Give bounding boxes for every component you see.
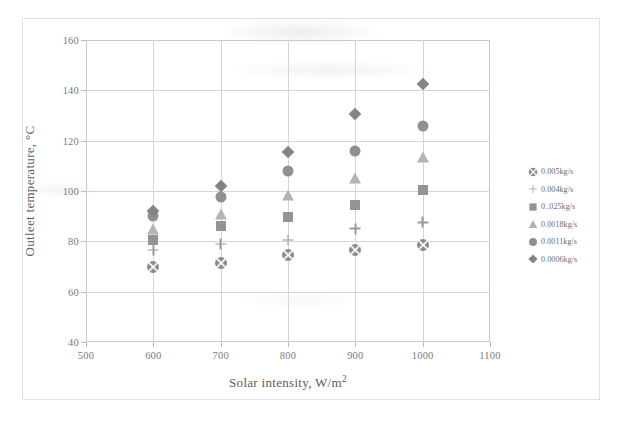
y-tick-label: 120 <box>63 135 79 146</box>
gridline-vertical <box>221 40 222 342</box>
x-tick-mark <box>86 342 87 347</box>
gridline-vertical <box>355 40 356 342</box>
legend-marker-square-icon <box>528 201 538 213</box>
legend-item-label: 0.0006kg/s <box>541 255 577 264</box>
x-axis-title-text: Solar intensity, W/m <box>229 375 342 390</box>
x-axis-title: Solar intensity, W/m2 <box>86 374 490 391</box>
legend-item: 0.0006kg/s <box>528 251 600 269</box>
legend-marker-plus-icon <box>528 183 538 195</box>
data-point-circle-x <box>529 167 538 176</box>
legend-item: 0..025kg/s <box>528 198 600 216</box>
legend-item: 0.0011kg/s <box>528 233 600 251</box>
legend-item-label: 0.004kg/s <box>541 185 573 194</box>
y-tick-mark <box>81 241 86 242</box>
x-tick-mark <box>355 342 356 347</box>
data-point-triangle <box>529 220 538 228</box>
plot-area: 4060801001201401605006007008009001000110… <box>86 40 490 342</box>
legend-marker-circle-icon <box>528 236 538 248</box>
x-tick-mark <box>153 342 154 347</box>
data-point-plus <box>529 185 537 193</box>
data-point-circle <box>529 238 537 246</box>
data-point-diamond <box>528 255 537 264</box>
x-axis-title-exponent: 2 <box>342 374 347 384</box>
x-tick-label: 1100 <box>479 350 500 361</box>
x-tick-mark <box>490 342 491 347</box>
y-tick-label: 160 <box>63 35 79 46</box>
gridline-vertical <box>153 40 154 342</box>
x-tick-mark <box>221 342 222 347</box>
x-tick-label: 900 <box>347 350 363 361</box>
y-tick-mark <box>81 191 86 192</box>
y-tick-mark <box>81 40 86 41</box>
legend-item: 0.004kg/s <box>528 181 600 199</box>
x-tick-label: 800 <box>280 350 296 361</box>
chart-legend: 0.005kg/s0.004kg/s0..025kg/s0.0018kg/s0.… <box>528 163 600 268</box>
y-tick-label: 100 <box>63 186 79 197</box>
x-tick-mark <box>288 342 289 347</box>
y-tick-label: 80 <box>68 236 79 247</box>
legend-marker-diamond-icon <box>528 253 538 265</box>
x-tick-mark <box>423 342 424 347</box>
x-tick-label: 700 <box>212 350 228 361</box>
legend-item-label: 0..025kg/s <box>541 202 575 211</box>
x-tick-label: 1000 <box>412 350 434 361</box>
y-tick-mark <box>81 141 86 142</box>
gridline-vertical <box>288 40 289 342</box>
y-axis-title: Outleet temperature, °C <box>22 40 40 342</box>
y-tick-label: 40 <box>68 337 79 348</box>
gridline-vertical <box>423 40 424 342</box>
legend-item-label: 0.0018kg/s <box>541 220 577 229</box>
legend-item-label: 0.0011kg/s <box>541 237 577 246</box>
y-tick-label: 60 <box>68 286 79 297</box>
legend-marker-triangle-icon <box>528 218 538 230</box>
y-tick-label: 140 <box>63 85 79 96</box>
legend-item: 0.005kg/s <box>528 163 600 181</box>
y-tick-mark <box>81 90 86 91</box>
legend-marker-circle-x-icon <box>528 166 538 178</box>
y-tick-mark <box>81 292 86 293</box>
legend-item: 0.0018kg/s <box>528 216 600 234</box>
legend-item-label: 0.005kg/s <box>541 167 573 176</box>
x-tick-label: 600 <box>145 350 161 361</box>
x-tick-label: 500 <box>78 350 94 361</box>
data-point-square <box>529 203 536 210</box>
